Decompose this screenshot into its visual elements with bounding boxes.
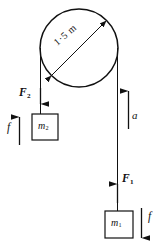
right-friction-label: f <box>148 211 151 223</box>
right-tension-label: F1 <box>122 173 134 185</box>
left-tension-label: F2 <box>19 87 31 99</box>
acceleration-label: a <box>132 110 138 121</box>
pulley-diagram: 1·5 m F2 m2 f a F1 m1 f <box>0 0 161 251</box>
diameter-dimension-line <box>52 21 107 76</box>
mass-m2-label: m2 <box>38 121 49 131</box>
left-friction-label: f <box>7 122 10 134</box>
mass-m2-subscript: 2 <box>45 124 48 131</box>
right-tension-subscript: 1 <box>130 178 134 186</box>
left-tension-subscript: 2 <box>27 92 31 100</box>
left-tension-symbol: F <box>19 86 27 98</box>
right-tension-symbol: F <box>122 172 130 184</box>
mass-m1-subscript: 1 <box>118 221 121 228</box>
diagram-canvas <box>0 0 161 251</box>
mass-m1-label: m1 <box>111 218 122 228</box>
